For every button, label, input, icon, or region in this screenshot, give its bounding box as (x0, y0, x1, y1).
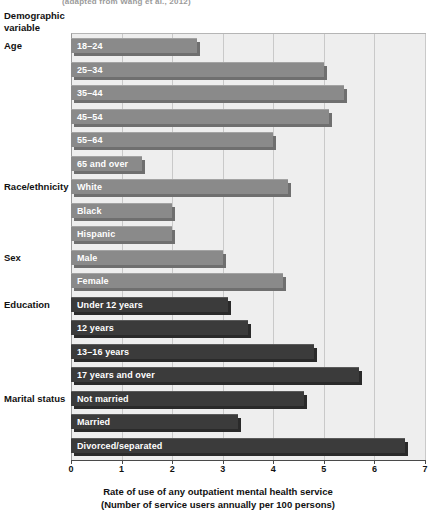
bar[interactable]: Not married (71, 391, 304, 406)
bar-shadow-bottom (74, 147, 276, 150)
bar[interactable]: 45–54 (71, 109, 329, 124)
bar-row: Divorced/separated (71, 438, 425, 455)
bar-row: Female (71, 273, 425, 290)
bar-label: White (77, 182, 102, 192)
bar-shadow-bottom (74, 335, 251, 338)
bar-label: 25–34 (77, 65, 103, 75)
bar-row: 45–54 (71, 109, 425, 126)
bar[interactable]: Male (71, 250, 223, 265)
bar-row: 25–34 (71, 62, 425, 79)
source-citation: (adapted from Wang et al., 2012) (62, 0, 436, 7)
group-label-marital-status: Marital status (4, 393, 72, 404)
bar-row: 65 and over (71, 156, 425, 173)
bar-shadow-bottom (74, 406, 307, 409)
bar-row: Hispanic (71, 226, 425, 243)
bar[interactable]: 13–16 years (71, 344, 314, 359)
bar-label: 13–16 years (77, 347, 129, 357)
x-tick-label: 3 (220, 464, 225, 474)
x-axis-title-line1: Rate of use of any outpatient mental hea… (0, 486, 436, 499)
bar[interactable]: 65 and over (71, 156, 142, 171)
bar[interactable]: Divorced/separated (71, 438, 405, 453)
bar-row: 55–64 (71, 132, 425, 149)
bar-shadow-bottom (74, 453, 408, 456)
bar-label: 35–44 (77, 88, 103, 98)
chart-container: (adapted from Wang et al., 2012) Demogra… (0, 0, 436, 519)
y-axis-heading-line2: variable (4, 22, 74, 34)
bar-shadow-bottom (74, 382, 362, 385)
y-axis-heading-line1: Demographic (4, 10, 74, 22)
bar-label: Not married (77, 394, 129, 404)
bar-row: Married (71, 414, 425, 431)
bar-row: White (71, 179, 425, 196)
group-label-education: Education (4, 299, 72, 310)
bar-label: Divorced/separated (77, 441, 162, 451)
bar[interactable]: 35–44 (71, 85, 344, 100)
bar-row: 12 years (71, 320, 425, 337)
bar-row: 35–44 (71, 85, 425, 102)
bar-label: Male (77, 253, 97, 263)
bar-shadow-bottom (74, 312, 231, 315)
bar-label: Married (77, 417, 110, 427)
x-tick-label: 2 (170, 464, 175, 474)
x-tick-label: 4 (271, 464, 276, 474)
bar-shadow-bottom (74, 124, 332, 127)
bar-row: Not married (71, 391, 425, 408)
bar[interactable]: 12 years (71, 320, 248, 335)
bar-label: Female (77, 276, 109, 286)
x-tick-label: 7 (422, 464, 427, 474)
bar[interactable]: Married (71, 414, 238, 429)
x-axis-line (71, 460, 426, 461)
bar[interactable]: Under 12 years (71, 297, 228, 312)
x-tick-label: 6 (372, 464, 377, 474)
bar-label: 18–24 (77, 41, 103, 51)
bar-label: Black (77, 206, 102, 216)
bar-shadow-bottom (74, 218, 175, 221)
x-axis-title: Rate of use of any outpatient mental hea… (0, 486, 436, 511)
bar-shadow-bottom (74, 359, 317, 362)
bar[interactable]: 25–34 (71, 62, 324, 77)
bar-shadow-bottom (74, 77, 327, 80)
bar[interactable]: Female (71, 273, 283, 288)
bar-row: 17 years and over (71, 367, 425, 384)
group-label-sex: Sex (4, 252, 72, 263)
bar-row: Male (71, 250, 425, 267)
bar-shadow-bottom (74, 53, 200, 56)
gridline (425, 34, 426, 461)
bar-shadow-bottom (74, 288, 286, 291)
bar[interactable]: Black (71, 203, 172, 218)
bar-label: 45–54 (77, 112, 103, 122)
bar[interactable]: Hispanic (71, 226, 172, 241)
bar[interactable]: 55–64 (71, 132, 273, 147)
bar-row: Under 12 years (71, 297, 425, 314)
group-label-race-ethnicity: Race/ethnicity (4, 181, 72, 192)
bar-label: 12 years (77, 323, 114, 333)
x-tick-label: 1 (119, 464, 124, 474)
bar-label: 17 years and over (77, 370, 155, 380)
y-axis-heading: Demographic variable (4, 10, 74, 33)
bar[interactable]: 18–24 (71, 38, 197, 53)
group-label-age: Age (4, 40, 72, 51)
bar-row: 18–24 (71, 38, 425, 55)
bar-shadow-bottom (74, 429, 241, 432)
x-tick-label: 5 (321, 464, 326, 474)
bar-label: Under 12 years (77, 300, 143, 310)
x-axis-title-line2: (Number of service users annually per 10… (0, 499, 436, 512)
bar-shadow-bottom (74, 100, 347, 103)
bar-label: 65 and over (77, 159, 128, 169)
bar-shadow-bottom (74, 171, 145, 174)
bar-row: Black (71, 203, 425, 220)
bar-shadow-bottom (74, 194, 291, 197)
bar-shadow-bottom (74, 265, 226, 268)
bar[interactable]: 17 years and over (71, 367, 359, 382)
bar-label: Hispanic (77, 229, 115, 239)
bar-row: 13–16 years (71, 344, 425, 361)
bar[interactable]: White (71, 179, 288, 194)
bar-label: 55–64 (77, 135, 103, 145)
x-tick-label: 0 (68, 464, 73, 474)
bar-shadow-bottom (74, 241, 175, 244)
